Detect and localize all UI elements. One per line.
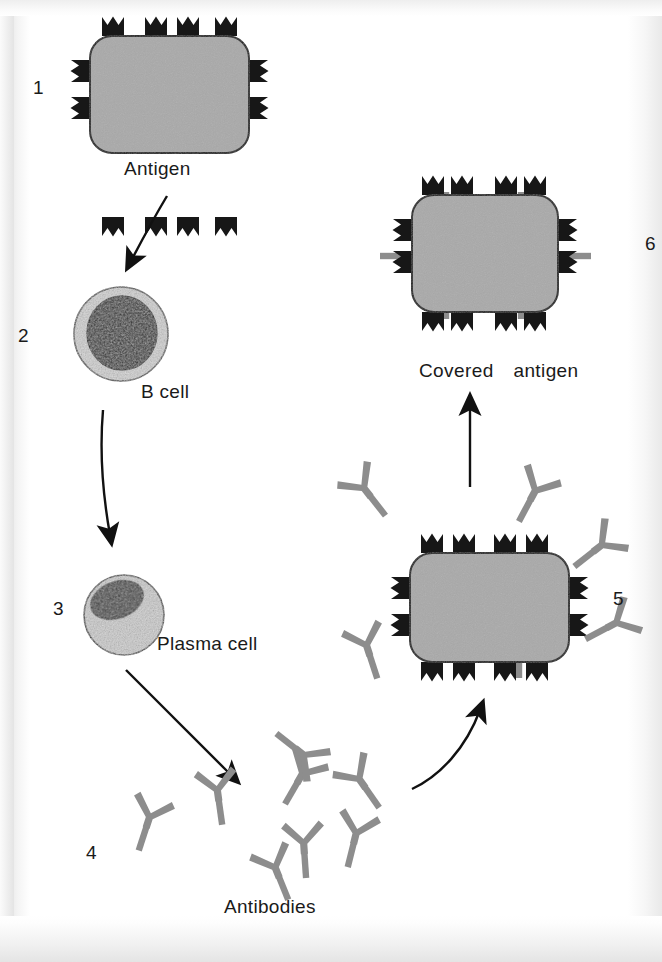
antibody bbox=[339, 618, 397, 685]
covered-antigen-step-6 bbox=[380, 176, 591, 332]
label-covered-antigen: Covered antigen bbox=[419, 360, 579, 382]
antigen-spikes-top bbox=[422, 176, 546, 196]
label-antibodies: Antibodies bbox=[224, 896, 316, 918]
antigen-spikes-bottom bbox=[421, 662, 548, 682]
antibody bbox=[118, 790, 176, 857]
immune-response-diagram bbox=[0, 0, 662, 962]
step-number-1: 1 bbox=[33, 77, 44, 99]
antigen-step-5 bbox=[391, 534, 589, 682]
antigen-spikes-top bbox=[102, 17, 237, 37]
arrow-plasmacell-to-antibodies bbox=[126, 670, 232, 776]
antibody bbox=[334, 458, 403, 529]
step-number-5: 5 bbox=[613, 588, 624, 610]
label-antigen: Antigen bbox=[124, 158, 191, 180]
antigen-body bbox=[90, 36, 249, 153]
antigen-spikes-left bbox=[71, 60, 91, 119]
antigen-spikes-left bbox=[393, 219, 413, 273]
step-number-3: 3 bbox=[53, 598, 64, 620]
b-cell-step-2 bbox=[74, 287, 168, 381]
step-number-4: 4 bbox=[86, 842, 97, 864]
antibody bbox=[561, 515, 632, 584]
plasma-cell-step-3 bbox=[84, 574, 164, 655]
label-b-cell: B cell bbox=[141, 381, 189, 403]
antigen-binding-step-5 bbox=[334, 458, 646, 685]
antigen-spikes-left bbox=[391, 577, 411, 636]
step-number-6: 6 bbox=[645, 233, 656, 255]
arrow-antibodies-to-binding bbox=[412, 710, 480, 789]
antigen-spikes-bottom bbox=[422, 312, 546, 332]
antibody bbox=[500, 462, 564, 532]
label-plasma-cell: Plasma cell bbox=[157, 633, 257, 655]
arrow-bcell-to-plasmacell bbox=[102, 410, 110, 535]
antigen-spikes-bottom bbox=[102, 217, 237, 237]
antigen-body bbox=[410, 553, 569, 662]
antigen-body bbox=[412, 195, 558, 312]
antigen-spikes-top bbox=[421, 534, 548, 554]
step-number-2: 2 bbox=[18, 325, 29, 347]
antibodies-step-4 bbox=[118, 717, 397, 908]
antibody bbox=[327, 807, 382, 872]
antibody bbox=[193, 766, 243, 828]
b-cell-nucleus bbox=[87, 296, 157, 370]
antigen-step-6 bbox=[393, 176, 578, 332]
antigen-spikes-right bbox=[569, 577, 589, 636]
antibody bbox=[329, 749, 397, 820]
antigen-spikes-right bbox=[249, 60, 269, 119]
antigen-step-1 bbox=[71, 17, 269, 237]
arrow-antigen-to-bcell bbox=[131, 196, 167, 261]
antigen-spikes-right bbox=[558, 219, 578, 273]
antibody bbox=[281, 820, 328, 879]
